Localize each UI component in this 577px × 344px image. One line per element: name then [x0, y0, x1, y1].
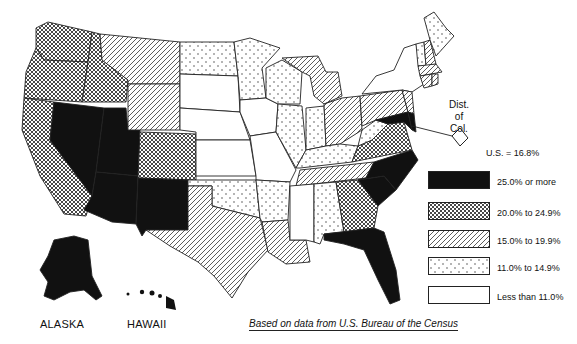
alaska-label: ALASKA — [40, 318, 84, 330]
state-HI — [127, 290, 177, 310]
dc-label-line: of — [449, 111, 469, 123]
legend-label: 25.0% or more — [497, 177, 556, 187]
dc-label-line: Dist. — [449, 99, 469, 111]
legend-item-15-19: 15.0% to 19.9% — [428, 230, 577, 250]
state-OH — [324, 96, 362, 146]
state-KS — [196, 140, 256, 176]
hawaii-label: HAWAII — [127, 318, 167, 330]
legend-swatch-crosshatch — [428, 202, 490, 220]
legend-item-11-14: 11.0% to 14.9% — [428, 257, 577, 277]
state-SD — [180, 74, 240, 112]
state-AR — [256, 180, 290, 222]
state-MS — [290, 184, 314, 242]
state-WA — [36, 22, 92, 62]
state-AK — [40, 236, 102, 300]
dc-label-line: Col. — [449, 123, 469, 135]
state-NY — [362, 44, 424, 94]
dc-label: Dist. of Col. — [449, 99, 469, 135]
legend-item-20-24: 20.0% to 24.9% — [428, 202, 577, 222]
legend-label: 20.0% to 24.9% — [497, 208, 561, 218]
legend-label: Less than 11.0% — [497, 292, 563, 302]
state-CO — [138, 132, 196, 180]
legend-label: 15.0% to 19.9% — [497, 236, 561, 246]
legend-swatch-dots — [428, 257, 490, 275]
state-ND — [180, 42, 238, 76]
state-RI — [432, 74, 438, 86]
legend-item-25-plus: 25.0% or more — [428, 171, 577, 191]
legend-swatch-diagonal — [428, 230, 490, 248]
legend-label: 11.0% to 14.9% — [497, 263, 560, 273]
legend-swatch-white — [428, 286, 490, 304]
us-average-label: U.S. = 16.8% — [486, 148, 539, 158]
legend-item-under-11: Less than 11.0% — [428, 286, 577, 306]
legend-swatch-solid — [428, 171, 490, 189]
source-note: Based on data from U.S. Bureau of the Ce… — [249, 318, 458, 331]
state-FL — [324, 228, 400, 304]
state-IN — [306, 106, 326, 150]
state-WY — [128, 84, 180, 130]
state-NM — [136, 178, 188, 236]
